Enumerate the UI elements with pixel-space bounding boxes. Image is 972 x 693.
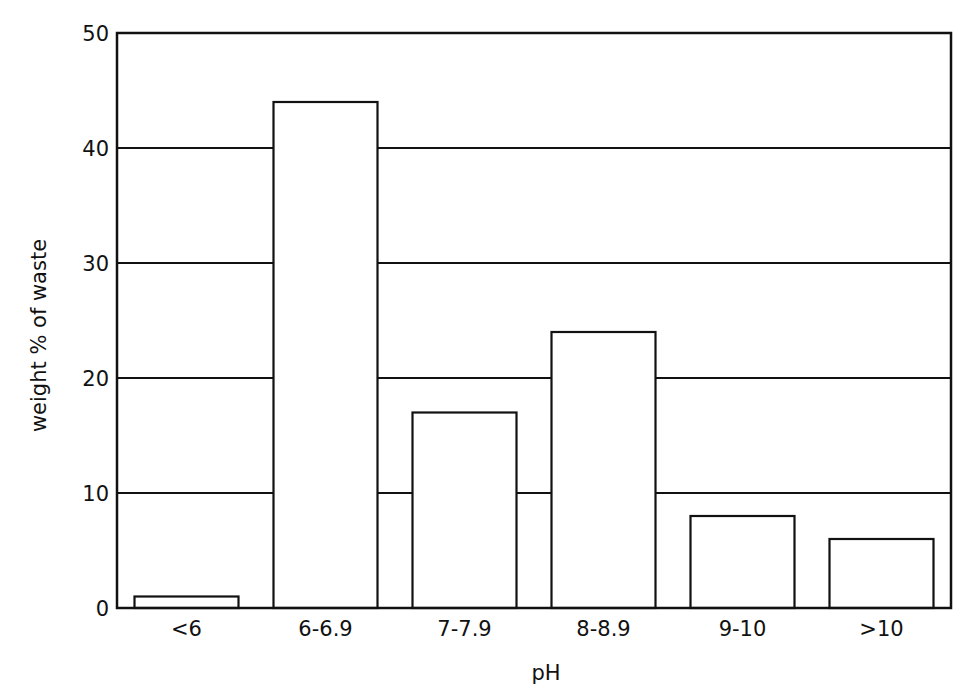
- plot-frame: [117, 33, 951, 608]
- bar: [691, 516, 795, 608]
- x-axis-categories: <66-6.97-7.98-8.99-10>10: [171, 617, 904, 641]
- bars: [135, 102, 934, 608]
- y-tick-label: 50: [82, 22, 109, 46]
- x-category-label: 6-6.9: [298, 617, 352, 641]
- y-axis-title: weight % of waste: [27, 239, 51, 432]
- x-category-label: 8-8.9: [576, 617, 630, 641]
- y-tick-label: 0: [96, 597, 109, 621]
- gridlines: [117, 148, 951, 493]
- y-tick-label: 30: [82, 252, 109, 276]
- bar: [552, 332, 656, 608]
- x-axis-title: pH: [531, 661, 560, 685]
- bar: [830, 539, 934, 608]
- y-axis-ticks: 01020304050: [82, 22, 109, 621]
- x-category-label: <6: [171, 617, 202, 641]
- bar: [274, 102, 378, 608]
- x-category-label: >10: [859, 617, 903, 641]
- y-tick-label: 40: [82, 137, 109, 161]
- bar: [135, 597, 239, 609]
- y-tick-label: 10: [82, 482, 109, 506]
- bar: [413, 413, 517, 609]
- x-category-label: 7-7.9: [437, 617, 491, 641]
- x-category-label: 9-10: [719, 617, 767, 641]
- y-tick-label: 20: [82, 367, 109, 391]
- bar-chart: 01020304050 <66-6.97-7.98-8.99-10>10 pH …: [0, 0, 972, 693]
